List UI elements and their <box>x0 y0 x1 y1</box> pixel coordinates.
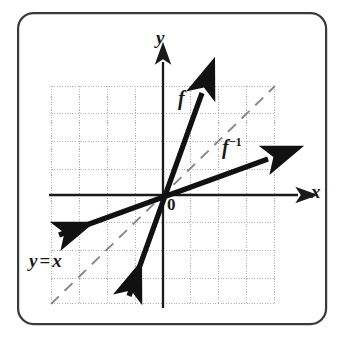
identity-right: x <box>52 250 62 271</box>
function-f-label: f <box>178 88 185 108</box>
function-f-inverse-label: f−1 <box>222 136 241 157</box>
origin-label: 0 <box>167 196 176 213</box>
x-axis-label: x <box>311 182 321 201</box>
y-axis-label: y <box>156 28 164 47</box>
figure-container: y x 0 f f−1 y=x <box>0 0 340 337</box>
identity-equals: = <box>37 250 52 271</box>
f-inverse-exponent: −1 <box>229 135 242 149</box>
graph-canvas <box>0 0 340 337</box>
identity-line-label: y=x <box>29 251 62 270</box>
f-inverse-base: f <box>222 136 229 158</box>
